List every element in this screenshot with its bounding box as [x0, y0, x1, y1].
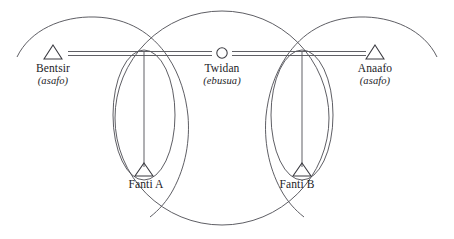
node-label-fanti-a-name: Fanti A [129, 178, 164, 191]
node-label-anaafo: Anaafo (asafo) [358, 62, 392, 88]
node-label-anaafo-sub: (asafo) [358, 75, 392, 87]
node-label-fanti-b: Fanti B [280, 178, 315, 191]
node-label-anaafo-name: Anaafo [358, 62, 392, 75]
diagram-canvas [0, 0, 454, 239]
node-label-bentsir-name: Bentsir [36, 62, 70, 75]
triangle-anaafo [366, 45, 384, 59]
node-label-bentsir: Bentsir (asafo) [36, 62, 70, 88]
triangle-bentsir [44, 45, 62, 59]
node-label-fanti-b-name: Fanti B [280, 178, 315, 191]
kinship-diagram: Bentsir (asafo) Twidan (ebusua) Anaafo (… [0, 0, 454, 239]
node-label-twidan-sub: (ebusua) [203, 75, 241, 87]
node-label-fanti-a: Fanti A [129, 178, 164, 191]
node-label-twidan: Twidan (ebusua) [203, 62, 241, 88]
link-bentsir-to-twidan [68, 52, 212, 56]
node-label-twidan-name: Twidan [203, 62, 241, 75]
link-twidan-to-anaafo [232, 52, 366, 56]
node-label-bentsir-sub: (asafo) [36, 75, 70, 87]
circle-twidan [217, 48, 227, 58]
